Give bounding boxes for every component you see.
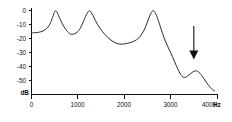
y-tick-label-minus10: -10	[17, 21, 27, 28]
plot-canvas: 0 -10 -20 -30 -40 -50 dB 0 1000 2000 300…	[0, 0, 232, 122]
x-tick-label-2000: 2000	[117, 101, 132, 108]
x-tick-label-3000: 3000	[163, 101, 178, 108]
y-tick-label-minus50: -50	[17, 77, 27, 84]
spectral-envelope-curve	[32, 11, 215, 91]
down-arrow-head	[189, 51, 198, 60]
x-tick-label-0: 0	[30, 101, 34, 108]
y-axis-unit-label: dB	[20, 89, 29, 96]
spectral-envelope-figure: 0 -10 -20 -30 -40 -50 dB 0 1000 2000 300…	[0, 0, 232, 122]
x-axis-unit-label: Hz	[213, 101, 221, 108]
y-tick-label-minus30: -30	[17, 49, 27, 56]
y-tick-label-minus20: -20	[17, 35, 27, 42]
x-tick-label-1000: 1000	[70, 101, 85, 108]
down-arrow	[189, 26, 198, 60]
y-tick-label-minus40: -40	[17, 63, 27, 70]
y-tick-label-0: 0	[22, 7, 26, 14]
x-axis-ticks	[32, 95, 218, 99]
